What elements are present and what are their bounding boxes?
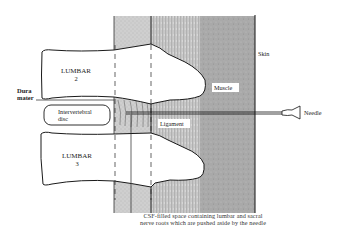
skin-label: Skin (258, 50, 269, 57)
disc-label-line2: disc (58, 115, 68, 122)
dura-label: Dura (17, 87, 32, 94)
muscle-label: Muscle (214, 84, 232, 91)
ligament-label: Ligament (160, 120, 184, 127)
caption-line-2: nerve roots which are pushed aside by th… (103, 219, 303, 226)
muscle-band (200, 16, 255, 213)
needle-hub-icon (282, 106, 300, 119)
caption-line-1: CSF-filled space containing lumbar and s… (103, 212, 303, 219)
ligament-band (151, 16, 200, 213)
lumbar-2-number: 2 (74, 75, 77, 82)
disc-label: Intervertebral (58, 108, 92, 115)
caption: CSF-filled space containing lumbar and s… (103, 212, 303, 227)
mater-label: mater (17, 94, 34, 101)
lumbar-3-label: LUMBAR (62, 152, 92, 160)
lumbar-3-number: 3 (75, 160, 78, 167)
lumbar-puncture-diagram: LUMBAR 2 LUMBAR 3 Dura mater Interverteb… (0, 0, 341, 242)
needle-label: Needle (304, 109, 322, 116)
lumbar-2-label: LUMBAR (61, 67, 91, 75)
